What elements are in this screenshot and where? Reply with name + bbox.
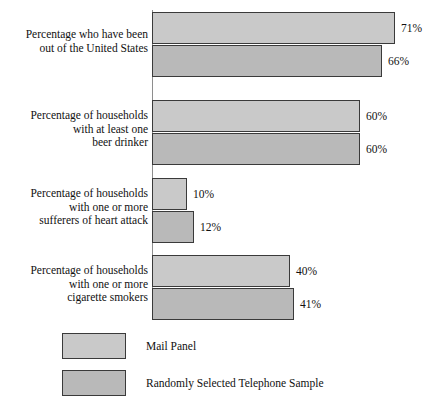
- bar-value-label: 71%: [395, 22, 422, 34]
- bar-group: Percentage of households with one or mor…: [0, 255, 444, 321]
- bar-series-mail-panel[interactable]: [152, 100, 360, 132]
- bar-value-label: 12%: [194, 221, 221, 233]
- category-label: Percentage of households with at least o…: [8, 109, 148, 150]
- bar-series-mail-panel[interactable]: [152, 255, 290, 287]
- category-label: Percentage who have been out of the Unit…: [8, 28, 148, 55]
- legend-label: Randomly Selected Telephone Sample: [146, 377, 324, 389]
- category-label: Percentage of households with one or mor…: [8, 187, 148, 228]
- bar-group: Percentage who have been out of the Unit…: [0, 12, 444, 78]
- bar-value-label: 40%: [290, 265, 317, 277]
- bar-series-telephone-sample[interactable]: [152, 45, 382, 77]
- bar-value-label: 60%: [360, 143, 387, 155]
- bar-value-label: 41%: [294, 298, 321, 310]
- bar-series-telephone-sample[interactable]: [152, 288, 294, 320]
- chart-legend: Mail Panel Randomly Selected Telephone S…: [0, 330, 444, 402]
- legend-label: Mail Panel: [146, 340, 196, 352]
- bar-value-label: 66%: [382, 55, 409, 67]
- bar-series-mail-panel[interactable]: [152, 12, 395, 44]
- bar-value-label: 60%: [360, 110, 387, 122]
- bar-group: Percentage of households with at least o…: [0, 100, 444, 166]
- bar-series-telephone-sample[interactable]: [152, 211, 194, 243]
- legend-swatch-icon: [62, 333, 126, 359]
- bar-series-telephone-sample[interactable]: [152, 133, 360, 165]
- bar-group: Percentage of households with one or mor…: [0, 178, 444, 244]
- category-label: Percentage of households with one or mor…: [8, 264, 148, 305]
- grouped-bar-chart: Percentage who have been out of the Unit…: [0, 0, 444, 408]
- legend-swatch-icon: [62, 370, 126, 396]
- bar-value-label: 10%: [187, 188, 214, 200]
- bar-series-mail-panel[interactable]: [152, 178, 187, 210]
